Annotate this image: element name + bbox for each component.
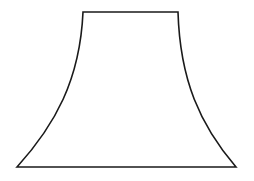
diagram-canvas bbox=[0, 0, 254, 181]
flared-trapezoid-shape bbox=[17, 12, 236, 167]
